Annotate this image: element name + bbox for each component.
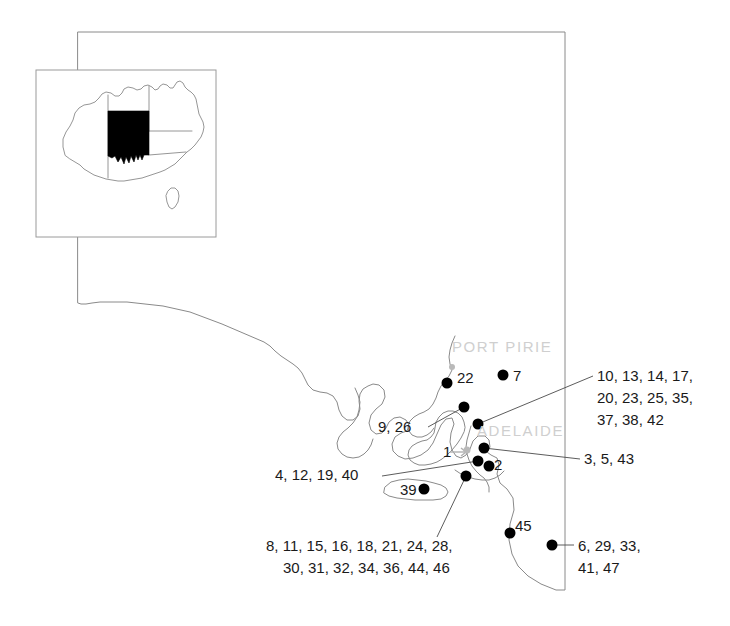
- group-label-southwest-line-1: 8, 11, 15, 16, 18, 21, 24, 28,: [266, 537, 453, 554]
- site-dot-southwest-group[interactable]: [461, 471, 472, 482]
- site-dot-7[interactable]: [498, 370, 509, 381]
- site-dot-45[interactable]: [505, 528, 516, 539]
- south-australia-highlight: [108, 111, 149, 164]
- city-label-adelaide: ADELAIDE: [477, 422, 564, 439]
- group-label-southeast-line-1: 6, 29, 33,: [578, 537, 641, 554]
- site-dot-39[interactable]: [419, 484, 430, 495]
- point-label-2: 2: [494, 456, 502, 473]
- group-label-northeast-line-3: 37, 38, 42: [597, 411, 664, 428]
- group-label-southwest-line-2: 30, 31, 32, 34, 36, 44, 46: [283, 559, 450, 576]
- group-label-northeast-line-1: 10, 13, 14, 17,: [597, 367, 693, 384]
- site-dot-3-5-43[interactable]: [479, 443, 490, 454]
- point-label-45: 45: [515, 517, 532, 534]
- site-dot-southeast-group[interactable]: [547, 540, 558, 551]
- group-label-4-12-19-40: 4, 12, 19, 40: [275, 466, 358, 483]
- eyre-peninsula-coast: [337, 388, 373, 458]
- group-label-northeast: 10, 13, 14, 17, 20, 23, 25, 35, 37, 38, …: [597, 367, 693, 428]
- map-figure: PORT PIRIE ADELAIDE 22 7 1 2 39 45 9, 26…: [0, 0, 730, 626]
- city-label-port-pirie: PORT PIRIE: [452, 338, 552, 355]
- group-label-southwest: 8, 11, 15, 16, 18, 21, 24, 28, 30, 31, 3…: [266, 537, 453, 576]
- site-dots-group: [419, 370, 558, 551]
- point-label-1: 1: [443, 443, 451, 460]
- point-label-22: 22: [457, 369, 474, 386]
- group-label-northeast-line-2: 20, 23, 25, 35,: [597, 389, 693, 406]
- leader-lines-group: [382, 376, 593, 545]
- leader-northeast: [478, 376, 593, 424]
- site-dot-9-26[interactable]: [459, 402, 470, 413]
- site-dot-22[interactable]: [442, 378, 453, 389]
- south-australia-map-svg: PORT PIRIE ADELAIDE 22 7 1 2 39 45 9, 26…: [0, 0, 730, 626]
- leader-9-26: [428, 407, 464, 427]
- port-pirie-dot: [449, 364, 455, 370]
- site-dot-2[interactable]: [484, 461, 495, 472]
- site-dot-4-12-19-40[interactable]: [473, 456, 484, 467]
- group-labels-group: 9, 26 10, 13, 14, 17, 20, 23, 25, 35, 37…: [266, 367, 693, 576]
- point-label-7: 7: [513, 367, 521, 384]
- group-label-9-26: 9, 26: [378, 418, 411, 435]
- australia-inset-group: [36, 70, 216, 237]
- peninsula-coastlines-group: [337, 336, 504, 492]
- group-label-southeast: 6, 29, 33, 41, 47: [578, 537, 641, 576]
- group-label-southeast-line-2: 41, 47: [578, 559, 620, 576]
- point-label-39: 39: [400, 481, 417, 498]
- adelaide-dot: [464, 447, 471, 454]
- city-labels-group: PORT PIRIE ADELAIDE: [452, 338, 564, 439]
- group-label-3-5-43: 3, 5, 43: [584, 450, 634, 467]
